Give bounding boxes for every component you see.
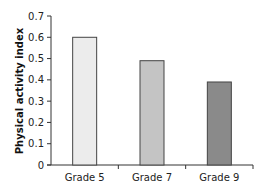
x-category-label: Grade 9 xyxy=(199,172,239,183)
bar-grade-7 xyxy=(140,61,164,165)
x-axis: Grade 5Grade 7Grade 9 xyxy=(47,165,253,183)
y-tick-label: 0.1 xyxy=(28,138,44,149)
y-axis-label: Physical activity index xyxy=(14,27,25,154)
y-tick-label: 0.3 xyxy=(28,96,44,107)
y-axis: 00.10.20.30.40.50.60.7 xyxy=(28,11,51,171)
y-tick-label: 0 xyxy=(38,160,44,171)
y-tick-label: 0.4 xyxy=(28,74,44,85)
bar-grade-5 xyxy=(73,37,97,165)
bar-chart: 00.10.20.30.40.50.60.7 Grade 5Grade 7Gra… xyxy=(0,0,266,193)
x-category-label: Grade 7 xyxy=(132,172,172,183)
y-tick-label: 0.6 xyxy=(28,32,44,43)
bar-grade-9 xyxy=(207,82,231,165)
y-tick-label: 0.5 xyxy=(28,53,44,64)
y-tick-label: 0.2 xyxy=(28,117,44,128)
x-category-label: Grade 5 xyxy=(65,172,105,183)
y-tick-label: 0.7 xyxy=(28,11,44,22)
bars xyxy=(73,37,232,165)
